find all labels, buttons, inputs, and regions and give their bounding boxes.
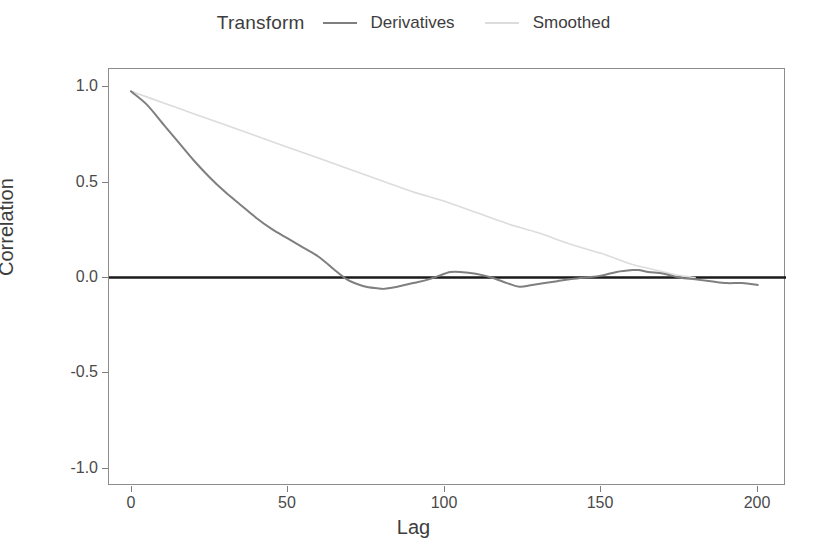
x-tick-mark-2 [287, 486, 288, 492]
plot-area [108, 68, 785, 485]
y-tick-mark-2 [102, 182, 108, 183]
y-tick-label-2: 0.5 [58, 173, 98, 191]
x-axis-title: Lag [0, 516, 827, 539]
legend-title: Transform [217, 12, 305, 34]
x-tick-mark-4 [600, 486, 601, 492]
y-axis-title: Correlation [0, 178, 18, 276]
series-line-derivatives [131, 91, 758, 289]
y-tick-mark-1 [102, 86, 108, 87]
legend-entry-smoothed[interactable]: Smoothed [485, 13, 611, 33]
x-tick-mark-3 [444, 486, 445, 492]
y-tick-label-1: 1.0 [58, 77, 98, 95]
legend-label-derivatives: Derivatives [371, 13, 455, 33]
plot-canvas [109, 69, 786, 486]
y-tick-mark-5 [102, 468, 108, 469]
legend-swatch-derivatives [323, 22, 357, 24]
x-tick-label-3: 100 [431, 494, 458, 512]
legend-swatch-smoothed [485, 22, 519, 24]
x-tick-mark-1 [131, 486, 132, 492]
chart-figure: Transform Derivatives Smoothed 1.0 0.5 0… [0, 0, 827, 560]
y-tick-mark-4 [102, 372, 108, 373]
y-tick-label-4: -0.5 [52, 363, 98, 381]
y-tick-label-3: 0.0 [58, 268, 98, 286]
legend-label-smoothed: Smoothed [533, 13, 611, 33]
y-tick-mark-3 [102, 277, 108, 278]
x-tick-label-5: 200 [744, 494, 771, 512]
x-tick-label-1: 0 [127, 494, 136, 512]
legend-entry-derivatives[interactable]: Derivatives [323, 13, 455, 33]
x-tick-mark-5 [757, 486, 758, 492]
x-tick-label-2: 50 [278, 494, 296, 512]
x-tick-label-4: 150 [587, 494, 614, 512]
chart-legend: Transform Derivatives Smoothed [0, 8, 827, 38]
y-tick-label-5: -1.0 [52, 459, 98, 477]
